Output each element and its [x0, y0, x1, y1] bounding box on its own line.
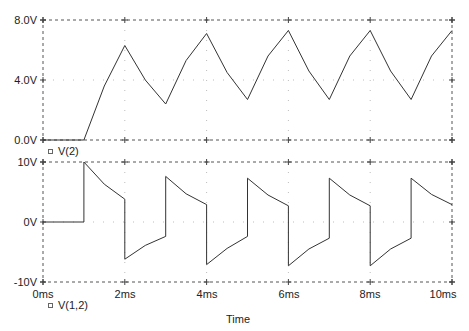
legend-v2: V(2) [49, 145, 79, 157]
trace-v1-2 [43, 162, 452, 266]
x-tick-4ms: 4ms [197, 288, 218, 300]
top-grid [43, 20, 452, 140]
legend-marker-icon [49, 150, 53, 154]
top-y-tick-0v: 0.0V [14, 134, 37, 146]
transient-analysis-chart: 8.0V 4.0V 0.0V V(2) 10V 0V -10V 0ms 2ms … [0, 0, 469, 331]
x-tick-8ms: 8ms [360, 288, 381, 300]
legend-marker-icon [49, 304, 53, 308]
bottom-panel: 10V 0V -10V [14, 156, 455, 288]
legend-label-v1-2: V(1,2) [58, 299, 88, 311]
bottom-y-tick-10v: 10V [17, 156, 37, 168]
x-tick-0ms: 0ms [33, 288, 54, 300]
x-axis: 0ms 2ms 4ms 6ms 8ms 10ms Time [33, 288, 457, 325]
x-tick-10ms: 10ms [430, 288, 457, 300]
top-y-tick-4v: 4.0V [14, 74, 37, 86]
bottom-y-tick-0v: 0V [24, 216, 38, 228]
x-tick-6ms: 6ms [279, 288, 300, 300]
x-tick-2ms: 2ms [115, 288, 136, 300]
top-plot-frame [43, 20, 452, 140]
x-axis-title: Time [226, 313, 250, 325]
legend-label-v2: V(2) [58, 145, 79, 157]
trace-v2 [43, 31, 452, 141]
bottom-y-tick-neg10v: -10V [14, 276, 38, 288]
legend-v1-2: V(1,2) [49, 299, 88, 311]
top-tick-marks [40, 17, 455, 143]
top-y-tick-8v: 8.0V [14, 14, 37, 26]
top-panel: 8.0V 4.0V 0.0V V(2) [14, 14, 455, 157]
